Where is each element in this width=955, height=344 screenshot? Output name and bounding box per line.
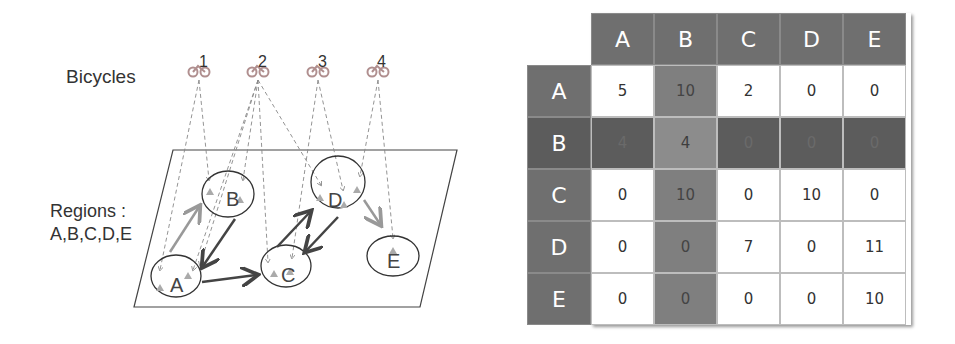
region-label-a: A [170, 274, 184, 296]
matrix-cell: 0 [843, 169, 906, 221]
bicycle-number: 4 [377, 53, 386, 70]
row-header-c: C [527, 169, 591, 221]
region-label-e: E [387, 250, 400, 272]
matrix-cell: 5 [591, 65, 654, 117]
region-label-b: B [226, 188, 239, 210]
matrix-cell: 0 [717, 117, 780, 169]
bicycles-label: Bicycles [66, 66, 136, 88]
row-header-d: D [527, 221, 591, 273]
bicycle-region-diagram: 1 2 3 4 A B C D E [0, 0, 520, 344]
column-header-d: D [780, 13, 843, 65]
row-header-a: A [527, 65, 591, 117]
regions-label-list: A,B,C,D,E [50, 223, 132, 246]
matrix-cell: 0 [591, 273, 654, 325]
bicycle-number: 1 [199, 53, 208, 70]
bicycle-number: 2 [258, 53, 267, 70]
bicycle-number: 3 [318, 53, 327, 70]
matrix-cell: 4 [654, 117, 717, 169]
matrix-cell: 0 [780, 273, 843, 325]
matrix-cell: 10 [843, 273, 906, 325]
matrix-cell: 0 [717, 169, 780, 221]
matrix-cell: 0 [717, 273, 780, 325]
regions-label-title: Regions : [50, 200, 132, 223]
arrow-d-to-c [306, 217, 338, 251]
matrix-cell: 0 [780, 221, 843, 273]
arrow-a-to-c [202, 275, 256, 282]
matrix-cell: 10 [654, 65, 717, 117]
column-header-b: B [654, 13, 717, 65]
column-header-a: A [591, 13, 654, 65]
matrix-cell: 0 [780, 117, 843, 169]
matrix-cell: 4 [591, 117, 654, 169]
region-label-d: D [328, 189, 342, 211]
matrix-cell: 2 [717, 65, 780, 117]
arrow-c-to-d [277, 212, 310, 247]
matrix-cell: 11 [843, 221, 906, 273]
matrix-cell: 0 [843, 65, 906, 117]
matrix-cell: 0 [843, 117, 906, 169]
region-label-c: C [281, 264, 295, 286]
matrix-cell: 0 [654, 273, 717, 325]
row-header-e: E [527, 273, 591, 325]
column-header-e: E [843, 13, 906, 65]
arrow-a-to-b [170, 207, 199, 252]
matrix-cell: 0 [780, 65, 843, 117]
row-header-b: B [527, 117, 591, 169]
matrix-cell: 0 [654, 221, 717, 273]
matrix-cell: 0 [591, 169, 654, 221]
matrix-cell: 0 [591, 221, 654, 273]
regions-label: Regions : A,B,C,D,E [50, 200, 132, 246]
arrow-d-to-e [364, 200, 380, 224]
matrix-cell: 10 [654, 169, 717, 221]
matrix-cell: 10 [780, 169, 843, 221]
matrix-cell: 7 [717, 221, 780, 273]
column-header-c: C [717, 13, 780, 65]
